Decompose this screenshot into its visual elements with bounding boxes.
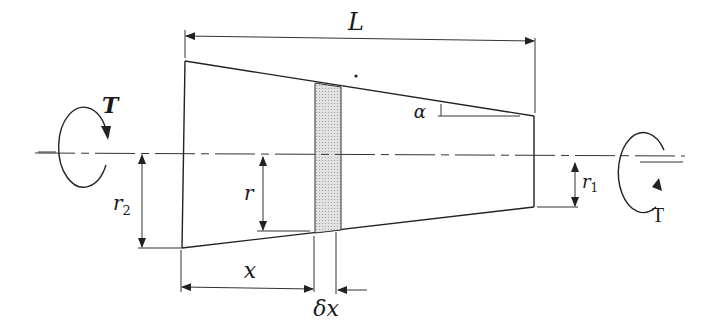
- torque-left: T: [38, 92, 120, 187]
- dot-mark: [354, 74, 357, 77]
- x-label: x: [244, 258, 257, 283]
- angle-label: α: [414, 101, 426, 122]
- r-label: r: [244, 181, 255, 205]
- centerline: [35, 153, 685, 156]
- element-width-dimension: δx: [313, 232, 367, 321]
- delta-x-label: δx: [313, 296, 339, 321]
- shaded-element-strip: [315, 83, 341, 233]
- length-label: L: [347, 8, 364, 36]
- torque-right: T: [618, 133, 683, 226]
- tapered-shaft-diagram: L α T T r2 r r1: [0, 0, 711, 328]
- torque-right-label: T: [652, 204, 664, 226]
- radius-r2-dimension: r2: [113, 155, 182, 248]
- torque-right-arrow-icon: [618, 133, 664, 213]
- length-dimension: L: [185, 8, 535, 113]
- r1-label: r1: [582, 171, 598, 195]
- radius-r-dimension: r: [244, 157, 310, 231]
- position-x-dimension: x: [181, 236, 314, 292]
- torque-left-arrow-icon: [59, 107, 107, 187]
- r2-label: r2: [113, 191, 131, 218]
- radius-r1-dimension: r1: [537, 163, 598, 207]
- torque-left-label: T: [102, 92, 120, 118]
